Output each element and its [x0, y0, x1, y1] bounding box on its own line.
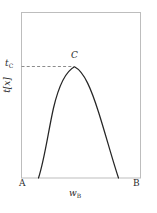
- y-axis-title: t[x]: [0, 65, 14, 105]
- critical-point-label: C: [71, 51, 78, 60]
- x-axis-left-endpoint-label: A: [19, 179, 26, 188]
- x-axis-title-symbol: w: [69, 188, 77, 198]
- figure-panel: tC t[x] wB A B C: [0, 0, 157, 213]
- x-axis-right-endpoint-label: B: [133, 179, 140, 188]
- x-axis-title: wB: [69, 189, 81, 199]
- plot-frame: [22, 13, 141, 179]
- y-axis-title-text: t[x]: [3, 77, 12, 93]
- x-axis-title-subscript: B: [77, 192, 81, 199]
